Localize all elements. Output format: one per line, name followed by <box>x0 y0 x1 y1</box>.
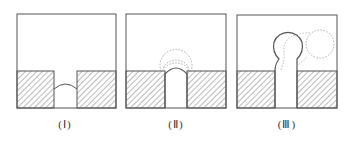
panel-3-dotted-trace-left <box>281 33 310 70</box>
panel-3 <box>237 15 337 108</box>
panel-3-solid-right <box>297 71 337 108</box>
panel-1 <box>17 14 116 108</box>
panel-1-solid-left <box>17 71 54 108</box>
panel-1-meniscus <box>54 84 77 89</box>
panel-3-solid-left <box>237 71 275 108</box>
panel-1-label: (Ⅰ) <box>45 118 85 131</box>
panel-2-dotted-arc-inner <box>164 63 188 71</box>
panel-2-bubble-outline <box>165 68 187 108</box>
panel-1-solid-right <box>77 71 116 108</box>
panel-3-detached-bubble <box>306 30 334 58</box>
panel-2-solid-left <box>126 71 165 108</box>
panel-2-solid-right <box>187 71 226 108</box>
panel-2 <box>126 14 226 108</box>
panel-2-label: (Ⅱ) <box>156 118 196 131</box>
panel-3-label: (Ⅲ) <box>267 118 307 131</box>
